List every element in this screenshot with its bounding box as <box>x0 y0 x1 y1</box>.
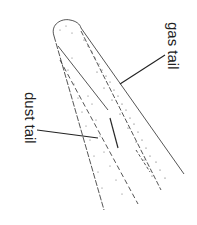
comet-diagram: gas tail dust tail <box>0 0 197 225</box>
gas-tail-label: gas tail <box>165 22 182 70</box>
comet-head <box>53 20 81 36</box>
dust-tail-leader-line <box>37 130 98 138</box>
dust-tail-label: dust tail <box>22 92 39 144</box>
gas-tail-inner-edge <box>81 31 161 190</box>
comet-outline <box>53 20 184 210</box>
dust-tail-mid-line <box>60 60 138 204</box>
gas-tail-leader-line <box>120 55 165 84</box>
gas-tail-streak <box>136 150 150 172</box>
dust-tail-streak <box>110 118 118 148</box>
